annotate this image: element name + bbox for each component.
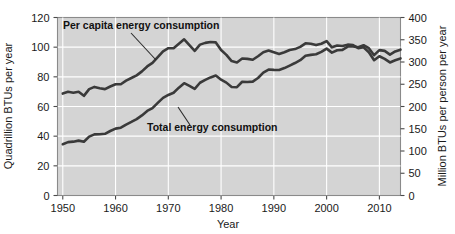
y-tick-label-right: 200 <box>409 101 427 113</box>
y-tick-label-right: 100 <box>409 145 427 157</box>
y-tick-label-right: 300 <box>409 56 427 68</box>
annotation-per-capita-energy-consumption: Per capita energy consumption <box>63 19 219 31</box>
x-tick-label: 1970 <box>156 202 180 214</box>
y-axis-label-left: Quadrillion BTUs per year <box>2 42 14 169</box>
y-tick-label-right: 250 <box>409 78 427 90</box>
x-tick-label: 2010 <box>367 202 391 214</box>
y-tick-label-left: 20 <box>37 160 49 172</box>
y-tick-label-right: 400 <box>409 12 427 24</box>
y-tick-label-left: 40 <box>37 130 49 142</box>
y-tick-label-right: 0 <box>409 190 415 202</box>
x-tick-label: 1980 <box>209 202 233 214</box>
y-tick-label-left: 100 <box>31 41 49 53</box>
y-tick-label-right: 150 <box>409 123 427 135</box>
x-tick-label: 1960 <box>103 202 127 214</box>
x-tick-label: 1990 <box>262 202 286 214</box>
chart-figure: 0204060801001200501001502002503003504001… <box>0 0 455 234</box>
y-tick-label-left: 80 <box>37 71 49 83</box>
y-tick-label-left: 120 <box>31 12 49 24</box>
energy-consumption-chart: 0204060801001200501001502002503003504001… <box>0 0 455 234</box>
annotation-total-energy-consumption: Total energy consumption <box>147 121 277 133</box>
x-axis-label: Year <box>217 218 240 230</box>
x-tick-label: 1950 <box>51 202 75 214</box>
y-tick-label-left: 60 <box>37 101 49 113</box>
y-tick-label-left: 0 <box>43 190 49 202</box>
y-axis-label-right: Million BTUs per person per year <box>436 25 448 186</box>
y-tick-label-right: 350 <box>409 34 427 46</box>
y-tick-label-right: 50 <box>409 167 421 179</box>
x-tick-label: 2000 <box>314 202 338 214</box>
